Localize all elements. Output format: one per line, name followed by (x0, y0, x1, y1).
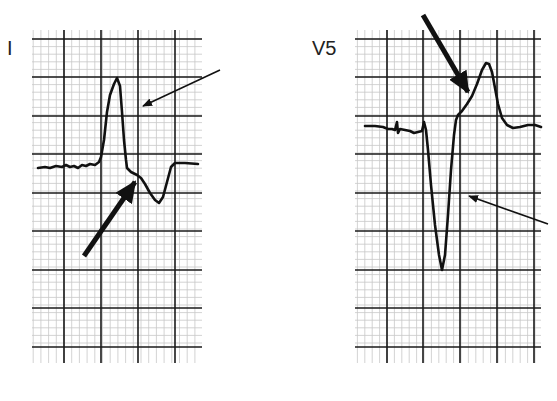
ecg-panel-lead-v5 (355, 15, 548, 363)
ecg-panel-lead-i (32, 30, 220, 363)
ecg-trace (365, 63, 541, 270)
thin-arrow-icon (469, 196, 548, 224)
ecg-figure (0, 0, 557, 401)
thin-arrow-icon (143, 70, 220, 106)
